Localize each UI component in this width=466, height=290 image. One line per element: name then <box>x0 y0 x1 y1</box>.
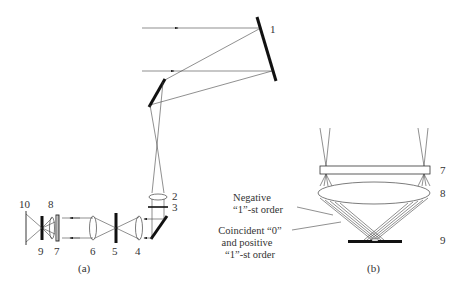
reflected-ray-top <box>163 29 259 81</box>
lens-8-b <box>318 182 430 204</box>
label-3: 3 <box>172 201 178 213</box>
label-8: 8 <box>48 198 54 210</box>
caption-b: (b) <box>367 262 380 275</box>
leader-negative <box>297 207 333 215</box>
ray-9-10-top <box>26 214 42 228</box>
label-7: 7 <box>54 245 60 257</box>
annotation-coincident-3: “1”-st order <box>225 249 275 260</box>
lens-4 <box>136 216 143 240</box>
label-6: 6 <box>90 245 96 257</box>
fold-mirror-2 <box>151 216 167 239</box>
cone-right-2 <box>424 128 428 166</box>
cone-right-1 <box>418 128 424 166</box>
label-9: 9 <box>38 245 44 257</box>
cone-left-2 <box>326 128 330 166</box>
annotation-negative-1: Negative <box>233 192 271 203</box>
annotation-coincident-1: Coincident “0” <box>218 225 282 236</box>
annotation-negative-2: “1”-st order <box>233 204 283 215</box>
beam-diverge-right <box>157 145 164 193</box>
lens-6 <box>90 216 97 240</box>
ray-9-10-bottom <box>26 228 42 242</box>
label-b-9: 9 <box>440 234 446 246</box>
target-spot <box>372 239 378 241</box>
reflected-ray-bottom <box>150 71 272 105</box>
label-b-8: 8 <box>440 187 446 199</box>
fan-right <box>418 174 430 186</box>
plate-7 <box>56 215 59 241</box>
leader-coincident <box>292 222 341 230</box>
lens-8 <box>50 217 55 239</box>
label-1: 1 <box>270 23 276 35</box>
lens-2 <box>149 194 167 200</box>
label-4: 4 <box>135 245 141 257</box>
panel-b: Negative “1”-st order Coincident “0” and… <box>218 128 446 275</box>
beam-converge-left <box>150 105 157 145</box>
label-b-7: 7 <box>440 164 446 176</box>
beam-diverge-left <box>152 145 157 193</box>
label-5: 5 <box>112 245 118 257</box>
plate-7-b <box>320 166 430 174</box>
fan-left <box>320 174 332 186</box>
cone-left-1 <box>320 128 326 166</box>
optical-diagram: 1 2 3 4 5 6 7 8 9 10 (a) <box>0 0 466 290</box>
label-10: 10 <box>19 198 31 210</box>
annotation-coincident-2: and positive <box>221 237 272 248</box>
caption-a: (a) <box>78 262 91 275</box>
